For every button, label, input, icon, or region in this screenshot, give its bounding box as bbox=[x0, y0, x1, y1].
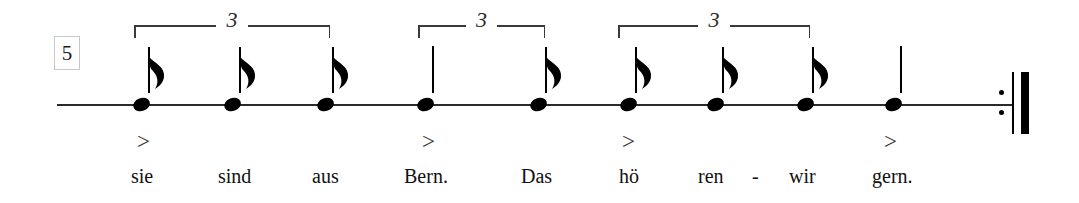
eighth-flag-icon bbox=[332, 57, 352, 89]
triplet-tick-right bbox=[809, 25, 811, 38]
lyric-syllable-2: sind bbox=[218, 166, 251, 186]
notehead-icon bbox=[528, 95, 548, 113]
notehead-icon bbox=[315, 95, 335, 113]
triplet-tick-left bbox=[618, 25, 620, 38]
eighth-flag-icon bbox=[545, 57, 565, 89]
triplet-bracket-2: 3 bbox=[418, 25, 545, 47]
eighth-flag-icon bbox=[239, 57, 259, 89]
notehead-icon bbox=[795, 95, 815, 113]
lyric-syllable-1: sie bbox=[131, 166, 153, 186]
accent-mark-1: > bbox=[137, 130, 150, 153]
lyric-syllable-9: gern. bbox=[872, 166, 913, 186]
barline-thick bbox=[1021, 72, 1029, 134]
lyric-syllable-6: hö bbox=[619, 166, 639, 186]
triplet-line-left bbox=[418, 25, 466, 27]
measure-number-box: 5 bbox=[54, 36, 80, 70]
triplet-line-right bbox=[730, 25, 810, 27]
lyric-syllable-3: aus bbox=[312, 166, 339, 186]
lyric-syllable-4: Bern. bbox=[404, 166, 448, 186]
lyric-syllable-8: wir bbox=[789, 166, 816, 186]
triplet-tick-left bbox=[418, 25, 420, 38]
triplet-tick-left bbox=[134, 25, 136, 38]
barline-thin bbox=[1012, 72, 1014, 134]
note-stem bbox=[900, 46, 902, 93]
eighth-flag-icon bbox=[812, 57, 832, 89]
triplet-line-left bbox=[134, 25, 216, 27]
music-notation-score: 5 3 3 3 bbox=[0, 0, 1079, 203]
notehead-icon bbox=[131, 95, 151, 113]
triplet-number: 3 bbox=[698, 9, 730, 31]
notehead-icon bbox=[883, 95, 903, 113]
triplet-bracket-1: 3 bbox=[134, 25, 330, 47]
triplet-bracket-3: 3 bbox=[618, 25, 810, 47]
notehead-icon bbox=[705, 95, 725, 113]
lyric-hyphen: - bbox=[752, 166, 759, 186]
triplet-number: 3 bbox=[216, 9, 248, 31]
measure-number-label: 5 bbox=[62, 43, 73, 64]
eighth-flag-icon bbox=[722, 57, 742, 89]
accent-mark-4: > bbox=[884, 130, 897, 153]
repeat-dot-top bbox=[999, 90, 1004, 95]
triplet-tick-right bbox=[329, 25, 331, 38]
notehead-icon bbox=[618, 95, 638, 113]
triplet-number: 3 bbox=[466, 9, 497, 31]
accent-mark-2: > bbox=[422, 130, 435, 153]
lyric-syllable-5: Das bbox=[521, 166, 552, 186]
triplet-line-right bbox=[497, 25, 545, 27]
triplet-tick-right bbox=[544, 25, 546, 38]
eighth-flag-icon bbox=[635, 57, 655, 89]
notehead-icon bbox=[222, 95, 242, 113]
triplet-line-left bbox=[618, 25, 698, 27]
accent-mark-3: > bbox=[622, 130, 635, 153]
note-stem bbox=[432, 46, 434, 93]
lyric-syllable-7: ren bbox=[698, 166, 724, 186]
eighth-flag-icon bbox=[148, 57, 168, 89]
repeat-dot-bottom bbox=[999, 110, 1004, 115]
triplet-line-right bbox=[248, 25, 330, 27]
notehead-icon bbox=[415, 95, 435, 113]
